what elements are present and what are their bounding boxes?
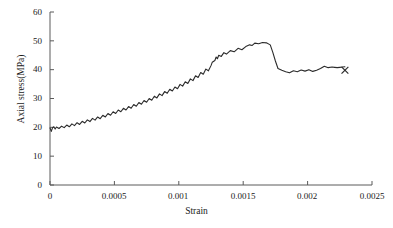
x-tick-label-0001: 0.001	[156, 191, 200, 201]
x-tick-label-0: 0	[28, 191, 72, 201]
x-tick-label-0002: 0.002	[285, 191, 329, 201]
y-tick-label-0: 0	[14, 180, 42, 190]
y-axis-title: Axial stress(MPa)	[16, 24, 26, 154]
x-tick-label-00015: 0.0015	[221, 191, 265, 201]
x-axis-title: Strain	[0, 206, 393, 216]
x-tick-label-00005: 0.0005	[92, 191, 136, 201]
x-tick-label-00025: 0.0025	[350, 191, 393, 201]
y-tick-label-60: 60	[14, 7, 42, 17]
stress-strain-chart: 60 50 40 30 20 10 0 0 0.0005 0.001 0.001…	[0, 0, 393, 228]
